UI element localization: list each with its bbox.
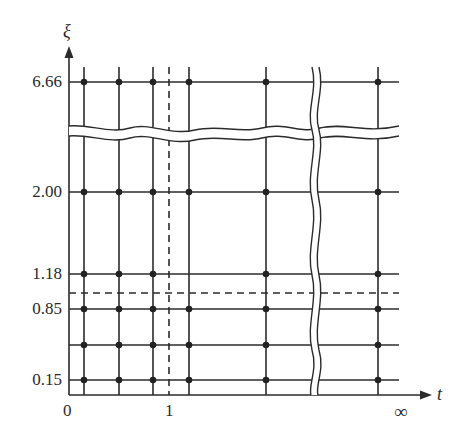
x-axis-label: t: [437, 385, 442, 403]
y-axis-label: ξ: [63, 22, 71, 40]
y-tick-label: 6.66: [6, 73, 62, 90]
y-tick-label: 2.00: [6, 183, 62, 200]
y-tick-label: 0.85: [6, 300, 62, 317]
grid-nodes: [81, 79, 382, 384]
x-tick-label: 1: [165, 402, 174, 419]
x-tick-label: ∞: [394, 402, 408, 421]
x-axis-arrow-icon: [420, 391, 432, 400]
y-tick-label: 0.15: [6, 371, 62, 388]
grid-diagram: ξ t 6.66 2.00 1.18 0.85 0.15 0 1 ∞: [0, 0, 467, 438]
x-tick-label: 0: [63, 402, 72, 419]
diagram-canvas: [0, 0, 467, 438]
y-tick-label: 1.18: [6, 265, 62, 282]
y-axis-arrow-icon: [65, 46, 74, 58]
